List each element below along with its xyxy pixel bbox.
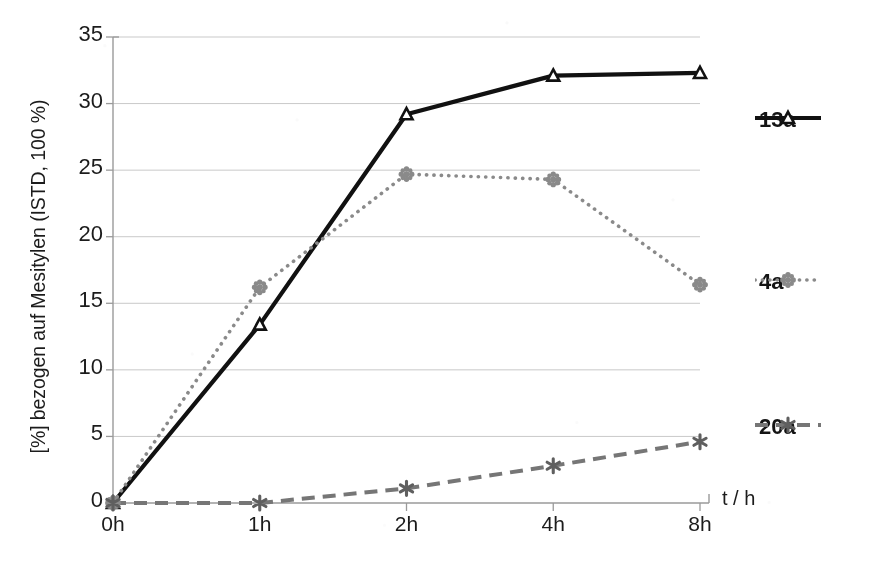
chart-axis-lines <box>113 37 709 503</box>
legend-swatch-flower-icon <box>755 269 821 291</box>
chart-plot-area <box>0 0 874 571</box>
chart-series-markers <box>105 67 708 511</box>
legend-swatch-triangle-icon <box>755 107 821 129</box>
legend-item-13a[interactable]: 13a <box>755 107 796 133</box>
legend-item-4a[interactable]: 4a <box>755 269 783 295</box>
x-axis-ticks <box>260 503 700 511</box>
chart-page: [%] bezogen auf Mesitylen (ISTD, 100 %) … <box>0 0 874 571</box>
legend-swatch-star-icon <box>755 414 821 436</box>
legend-item-20a[interactable]: 20a <box>755 414 796 440</box>
chart-gridlines <box>113 37 700 436</box>
y-axis-ticks <box>106 37 113 503</box>
chart-series-lines <box>113 73 700 503</box>
